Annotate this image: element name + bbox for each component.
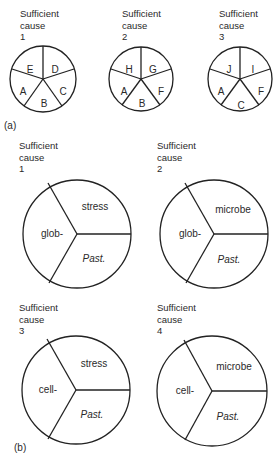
segment-label: J <box>227 64 232 75</box>
segment-label: microbe <box>215 204 251 215</box>
segment-label: F <box>258 86 264 97</box>
segment-label: cell- <box>176 385 194 396</box>
segment-label: C <box>59 86 66 97</box>
segment-label: Past. <box>83 253 106 264</box>
segment-label: D <box>51 64 58 75</box>
segment-label: A <box>20 86 27 97</box>
segment-label: B <box>41 98 48 109</box>
segment-label: B <box>139 98 146 109</box>
segment-label: microbe <box>216 361 252 372</box>
segment-label: glob- <box>179 228 201 239</box>
segment-label: I <box>252 64 255 75</box>
pie-b1 <box>23 180 131 288</box>
segment-label: A <box>121 86 128 97</box>
segment-label: F <box>158 86 164 97</box>
segment-label: stress <box>82 201 109 212</box>
segment-label: H <box>125 64 132 75</box>
segment-label: glob- <box>41 228 63 239</box>
segment-label: Past. <box>218 254 241 265</box>
segment-label: stress <box>81 358 108 369</box>
segment-label: C <box>237 100 244 111</box>
segment-label: cell- <box>39 384 57 395</box>
segment-label: E <box>27 64 34 75</box>
segment-label: Past. <box>81 409 104 420</box>
sufficient-cause-diagram: E D C B A H G F B A J I F C A stress Pas… <box>0 0 279 471</box>
segment-label: Past. <box>217 411 240 422</box>
segment-label: A <box>218 86 225 97</box>
pie-b4 <box>157 336 267 446</box>
segment-label: G <box>149 64 157 75</box>
pie-b2 <box>160 180 268 288</box>
